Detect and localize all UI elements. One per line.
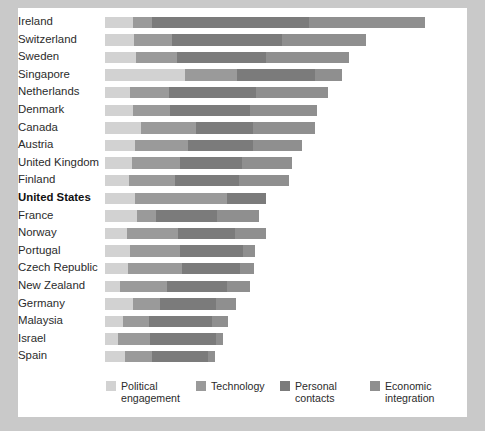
- category-label: Canada: [18, 121, 104, 134]
- bar-segment: [105, 17, 133, 29]
- category-label: Sweden: [18, 50, 104, 63]
- bar-segment: [170, 105, 250, 117]
- bar-segment: [105, 263, 128, 275]
- chart-row: Israel: [18, 331, 467, 349]
- bar-segment: [105, 105, 133, 117]
- stacked-bar: [105, 17, 425, 29]
- bar-segment: [128, 263, 182, 275]
- chart-row: Germany: [18, 296, 467, 314]
- bar-segment: [227, 281, 250, 293]
- chart-row: New Zealand: [18, 278, 467, 296]
- legend-swatch-personal-contacts: [280, 381, 290, 391]
- bar-segment: [237, 69, 314, 81]
- bar-segment: [256, 87, 328, 99]
- bar-segment: [208, 351, 215, 363]
- bar-segment: [135, 193, 228, 205]
- bar-segment: [105, 52, 136, 64]
- bar-segment: [152, 351, 208, 363]
- chart-row: Portugal: [18, 243, 467, 261]
- stacked-bar: [105, 34, 366, 46]
- legend-item-political-engagement: Political engagement: [106, 380, 180, 404]
- stacked-bar: [105, 351, 215, 363]
- category-label: Portugal: [18, 244, 104, 257]
- bar-segment: [150, 333, 216, 345]
- bar-segment: [129, 175, 175, 187]
- stacked-bar: [105, 263, 254, 275]
- category-label: Finland: [18, 173, 104, 186]
- chart-row: Austria: [18, 137, 467, 155]
- category-label: Ireland: [18, 15, 104, 28]
- legend-label-personal-contacts: Personal contacts: [295, 380, 337, 404]
- chart-row: Switzerland: [18, 32, 467, 50]
- chart-row: United Kingdom: [18, 155, 467, 173]
- legend-item-economic-integration: Economic integration: [370, 380, 434, 404]
- stacked-bar: [105, 122, 315, 134]
- bar-segment: [105, 140, 135, 152]
- category-label: Switzerland: [18, 33, 104, 46]
- bar-segment: [127, 228, 178, 240]
- bar-segment: [134, 34, 172, 46]
- category-label: United Kingdom: [18, 156, 104, 169]
- chart-row: Czech Republic: [18, 260, 467, 278]
- stacked-bar: [105, 105, 317, 117]
- category-label: Israel: [18, 332, 104, 345]
- stacked-bar: [105, 140, 302, 152]
- bar-segment: [136, 52, 177, 64]
- bar-segment: [135, 140, 188, 152]
- legend-label-political-engagement: Political engagement: [121, 380, 180, 404]
- bar-segment: [180, 157, 242, 169]
- stacked-bar: [105, 175, 289, 187]
- stacked-bar: [105, 298, 236, 310]
- bar-segment: [149, 316, 212, 328]
- bar-segment: [243, 245, 255, 257]
- bar-segment: [182, 263, 240, 275]
- bar-segment: [240, 263, 254, 275]
- stacked-bar: [105, 316, 228, 328]
- chart-row: United States: [18, 190, 467, 208]
- bar-segment: [180, 245, 243, 257]
- stacked-bar: [105, 333, 223, 345]
- category-label: France: [18, 209, 104, 222]
- stacked-bar: [105, 69, 342, 81]
- bar-segment: [123, 316, 149, 328]
- bar-segment: [216, 333, 223, 345]
- bar-segment: [105, 122, 141, 134]
- bar-segment: [172, 34, 281, 46]
- category-label: Austria: [18, 138, 104, 151]
- bar-segment: [105, 34, 134, 46]
- bar-segment: [196, 122, 253, 134]
- stacked-bar: [105, 210, 259, 222]
- bar-segment: [217, 210, 259, 222]
- bar-segment: [212, 316, 228, 328]
- bar-segment: [242, 157, 292, 169]
- bar-segment: [185, 69, 238, 81]
- chart-row: Canada: [18, 120, 467, 138]
- bar-segment: [105, 298, 133, 310]
- legend-item-personal-contacts: Personal contacts: [280, 380, 337, 404]
- chart-row: Malaysia: [18, 313, 467, 331]
- bar-segment: [137, 210, 156, 222]
- chart-row: Spain: [18, 348, 467, 366]
- bar-segment: [167, 281, 227, 293]
- legend-item-technology: Technology: [196, 380, 265, 392]
- bar-segment: [105, 210, 137, 222]
- category-label: Czech Republic: [18, 261, 104, 274]
- bar-segment: [105, 193, 135, 205]
- bar-segment: [130, 245, 179, 257]
- stacked-bar: [105, 87, 328, 99]
- bar-segment: [133, 298, 160, 310]
- bar-segment: [156, 210, 218, 222]
- legend-swatch-political-engagement: [106, 381, 116, 391]
- bar-segment: [175, 175, 239, 187]
- plot-area: IrelandSwitzerlandSwedenSingaporeNetherl…: [18, 14, 467, 376]
- category-label: Spain: [18, 349, 104, 362]
- chart-row: France: [18, 208, 467, 226]
- bar-segment: [235, 228, 267, 240]
- bar-segment: [132, 157, 181, 169]
- bar-segment: [250, 105, 317, 117]
- bar-segment: [216, 298, 236, 310]
- category-label: Norway: [18, 226, 104, 239]
- bar-segment: [266, 52, 349, 64]
- bar-segment: [105, 157, 132, 169]
- bar-segment: [130, 87, 169, 99]
